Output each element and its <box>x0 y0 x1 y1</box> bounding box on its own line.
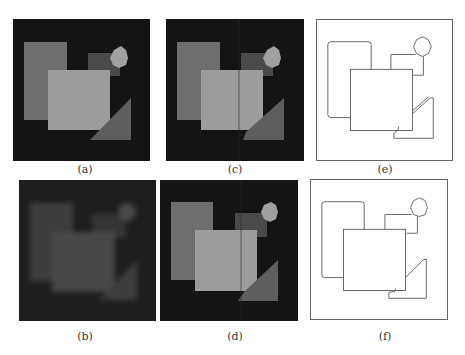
panel-f-edges <box>310 179 448 320</box>
restored-shapes-image <box>160 180 298 321</box>
caption-f: (f) <box>365 330 405 343</box>
caption-c: (c) <box>215 163 255 176</box>
synthetic-shapes-image <box>166 19 304 161</box>
edge-map <box>317 20 452 160</box>
panel-e-edges <box>316 19 453 161</box>
caption-d: (d) <box>215 330 255 343</box>
blurred-shapes-image <box>19 180 156 321</box>
caption-b: (b) <box>65 330 105 343</box>
panel-c-image <box>166 19 304 161</box>
edge-map <box>311 180 447 319</box>
caption-e: (e) <box>365 163 405 176</box>
synthetic-shapes-image <box>13 19 150 161</box>
panel-b-image <box>19 180 156 321</box>
panel-a-image <box>13 19 150 161</box>
caption-a: (a) <box>65 163 105 176</box>
panel-d-image <box>160 180 298 321</box>
